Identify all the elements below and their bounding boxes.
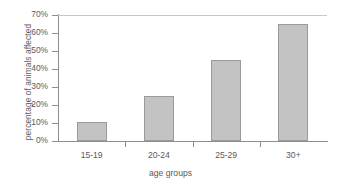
y-axis-tick-label: 30% xyxy=(14,81,48,91)
y-axis-tick-label: 60% xyxy=(14,27,48,37)
y-axis-tick xyxy=(52,141,58,142)
y-axis-tick-label: 10% xyxy=(14,117,48,127)
y-axis-tick-label: 50% xyxy=(14,45,48,55)
x-axis-tick-label: 15-19 xyxy=(62,150,122,160)
y-axis-tick xyxy=(52,69,58,70)
x-axis-tick xyxy=(260,142,261,147)
top-gridline xyxy=(58,15,327,16)
x-axis-tick-label: 25-29 xyxy=(196,150,256,160)
bar-chart: percentage of animals affected 0%10%20%3… xyxy=(0,0,341,191)
x-axis-tick-label: 30+ xyxy=(263,150,323,160)
y-axis-tick xyxy=(52,51,58,52)
y-axis-tick-label: 70% xyxy=(14,9,48,19)
x-axis-tick xyxy=(125,142,126,147)
x-axis-tick xyxy=(193,142,194,147)
x-axis-title: age groups xyxy=(0,168,341,178)
y-axis-tick xyxy=(52,123,58,124)
bar xyxy=(77,122,107,141)
y-axis-tick xyxy=(52,33,58,34)
x-axis-tick-label: 20-24 xyxy=(129,150,189,160)
bar xyxy=(278,24,308,141)
bar xyxy=(211,60,241,141)
y-axis-tick-label: 0% xyxy=(14,135,48,145)
y-axis-tick xyxy=(52,87,58,88)
y-axis-tick-label: 40% xyxy=(14,63,48,73)
bar xyxy=(144,96,174,141)
y-axis-tick xyxy=(52,15,58,16)
y-axis-tick-label: 20% xyxy=(14,99,48,109)
y-axis-tick xyxy=(52,105,58,106)
